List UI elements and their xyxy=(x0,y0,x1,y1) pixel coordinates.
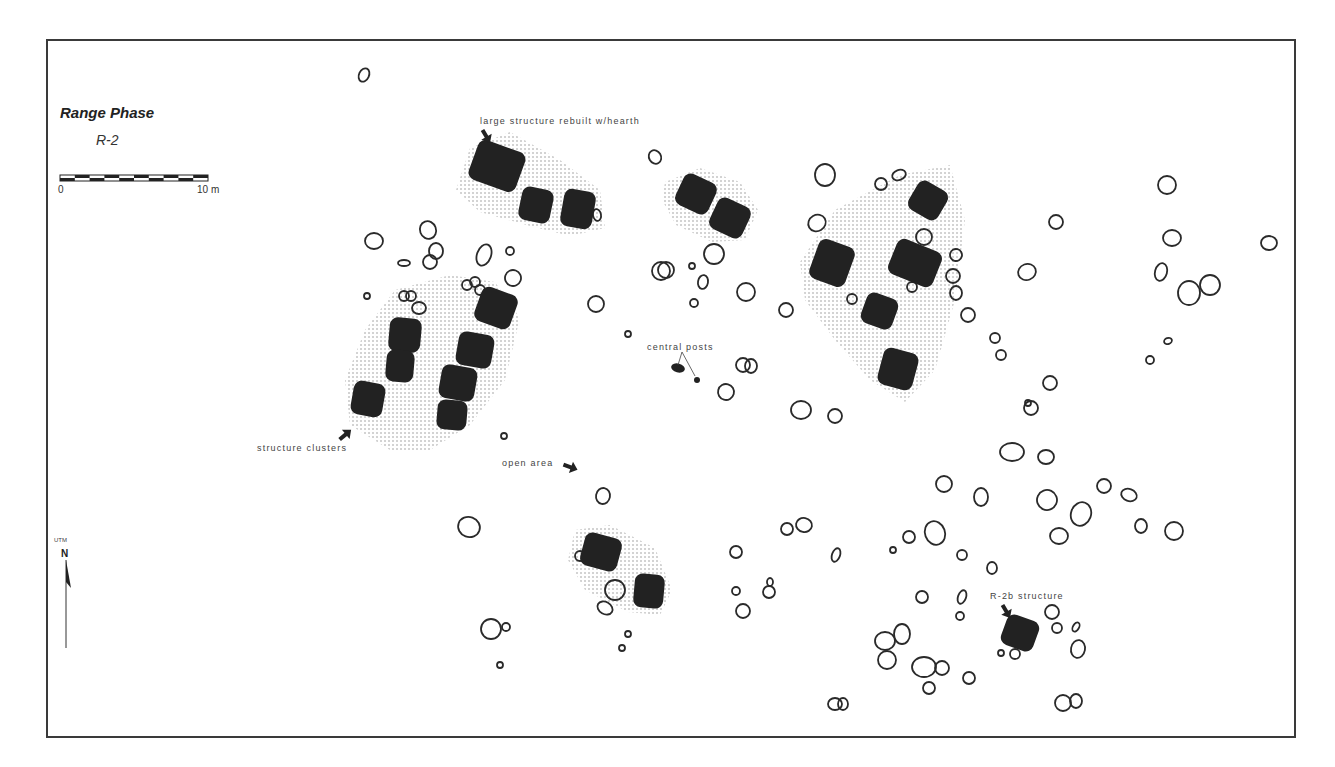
map-frame xyxy=(46,39,1296,738)
annotation-large-structure: large structure rebuilt w/hearth xyxy=(480,116,640,126)
map-title: Range Phase xyxy=(60,104,154,121)
annotation-structure-clusters: structure clusters xyxy=(257,443,347,453)
phase-label: R-2 xyxy=(96,132,119,148)
scale-start-label: 0 xyxy=(58,184,64,195)
utm-label: UTM xyxy=(54,537,67,543)
scale-end-label: 10 m xyxy=(197,184,219,195)
annotation-r2b-structure: R-2b structure xyxy=(990,591,1064,601)
north-label: N xyxy=(61,548,68,559)
annotation-open-area: open area xyxy=(502,458,553,468)
annotation-central-posts: central posts xyxy=(647,342,714,352)
